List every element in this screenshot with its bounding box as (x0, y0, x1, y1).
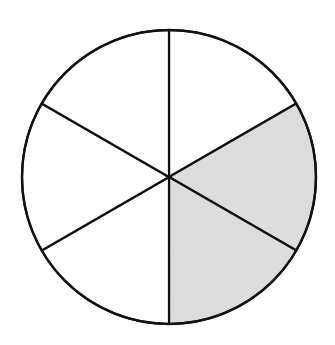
fraction-circle-diagram (0, 0, 335, 345)
